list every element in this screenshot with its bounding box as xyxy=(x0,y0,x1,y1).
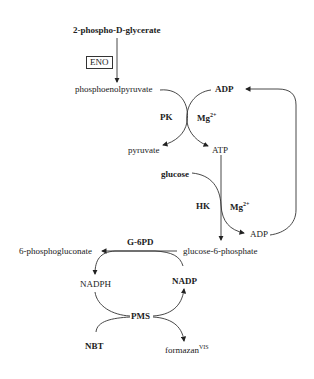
label-nadph: NADPH xyxy=(80,280,111,289)
label-pyruvate: pyruvate xyxy=(128,146,160,155)
enzyme-eno-box: ENO xyxy=(86,56,113,69)
mg-text: Mg xyxy=(230,202,243,212)
label-2-phospho-d-glycerate: 2-phospho-D-glycerate xyxy=(73,26,161,35)
mg-charge: 2+ xyxy=(243,201,249,207)
cofactor-mg-hk: Mg2+ xyxy=(230,201,249,212)
label-adp-top: ADP xyxy=(215,85,234,94)
label-adp-bottom: ADP xyxy=(250,230,268,239)
formazan-vis: VIS xyxy=(199,344,209,350)
enzyme-g6pd: G-6PD xyxy=(127,238,154,247)
label-atp: ATP xyxy=(212,146,228,155)
label-phosphoenolpyruvate: phosphoenolpyruvate xyxy=(75,85,152,94)
mg-charge: 2+ xyxy=(210,112,216,118)
formazan-text: formazan xyxy=(165,345,199,355)
label-pms: PMS xyxy=(131,312,150,321)
label-nadp: NADP xyxy=(172,277,197,286)
enzyme-pk: PK xyxy=(160,113,173,122)
pathway-arrows xyxy=(0,0,314,379)
enzyme-hk: HK xyxy=(196,202,210,211)
label-glucose-6-phosphate: glucose-6-phosphate xyxy=(183,247,257,256)
label-6-phosphogluconate: 6-phosphogluconate xyxy=(19,247,92,256)
label-formazan: formazanVIS xyxy=(165,344,209,355)
label-glucose: glucose xyxy=(161,170,189,179)
mg-text: Mg xyxy=(197,113,210,123)
cofactor-mg-pk: Mg2+ xyxy=(197,112,216,123)
label-nbt: NBT xyxy=(85,342,104,351)
